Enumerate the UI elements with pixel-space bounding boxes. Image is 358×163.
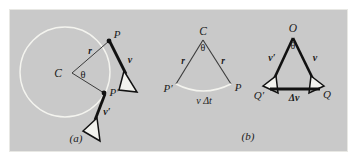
- panel-b-right-side-right-label: v: [313, 52, 318, 63]
- panel-b-right-angle-label: θ: [291, 40, 296, 51]
- panel-a-point-p-prime-label: P′: [108, 86, 119, 98]
- panel-b-left-base-left-label: P′: [162, 82, 173, 94]
- panel-a-velocity-label: v: [128, 54, 133, 65]
- panel-a-velocity-prime-label: v′: [103, 106, 110, 117]
- panel-b-caption: (b): [242, 130, 255, 143]
- panel-b-left-radius-left-label: r: [181, 56, 185, 66]
- panel-a-caption: (a): [70, 132, 83, 145]
- panel-a-radius-label: r: [88, 46, 92, 56]
- panel-a-center-label: C: [54, 67, 62, 79]
- panel-b-left-angle-label: θ: [201, 42, 206, 53]
- panel-b-right-base-right-label: Q: [323, 88, 331, 100]
- panel-b-left-base-right-label: P: [234, 81, 242, 93]
- physics-figure: C θ r P P′ v v′ (a) C θ r r P′ P v Δt O …: [0, 0, 358, 163]
- panel-a-point-p-label: P: [113, 28, 121, 40]
- panel-b-right-base-left-label: Q′: [254, 89, 265, 101]
- panel-b-arc-label: v Δt: [196, 95, 212, 106]
- panel-b-left-radius-right-label: r: [221, 56, 225, 66]
- panel-b-right-side-left-label: v′: [268, 52, 275, 63]
- panel-a-angle-label: θ: [80, 69, 85, 80]
- panel-b-delta-v-label: Δv: [288, 92, 300, 103]
- panel-b-right-apex-label: O: [289, 22, 298, 34]
- panel-b-left-apex-label: C: [199, 25, 207, 37]
